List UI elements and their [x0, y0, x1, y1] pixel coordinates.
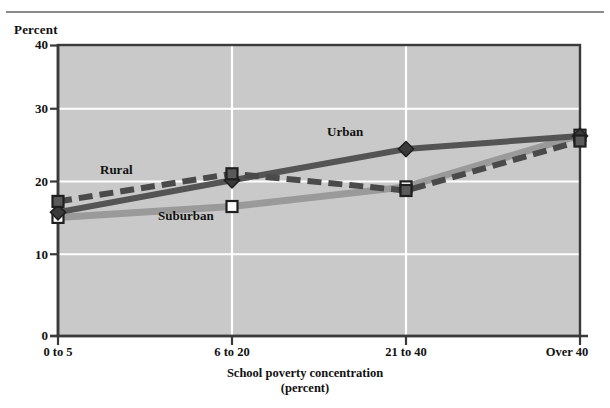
series-label-rural: Rural [100, 162, 133, 178]
x-axis-title: School poverty concentration (percent) [0, 366, 610, 396]
x-axis-title-sub: (percent) [0, 381, 610, 396]
data-point-suburban-1 [227, 201, 238, 212]
x-tick-label-21-to-40: 21 to 40 [366, 345, 446, 360]
x-axis-title-main: School poverty concentration [0, 366, 610, 381]
data-point-rural-2 [401, 185, 412, 196]
series-label-urban: Urban [327, 124, 363, 140]
data-point-rural-0 [53, 196, 64, 207]
x-tick-label-0-to-5: 0 to 5 [18, 345, 98, 360]
data-point-rural-1 [227, 168, 238, 179]
plot-background [58, 45, 580, 336]
data-point-rural-3 [575, 136, 586, 147]
chart-figure: Percent 40 30 20 10 0 [0, 0, 610, 408]
series-label-suburban: Suburban [158, 208, 214, 224]
x-tick-label-over-40: Over 40 [532, 345, 602, 360]
x-tick-label-6-to-20: 6 to 20 [192, 345, 272, 360]
